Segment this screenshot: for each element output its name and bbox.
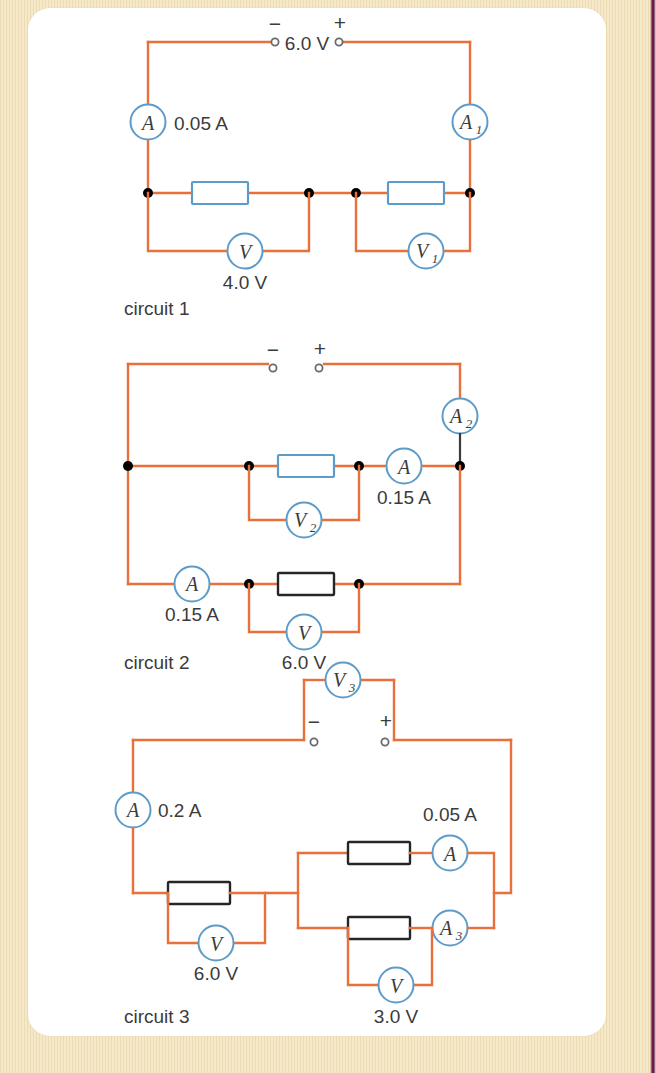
c3-resistor-bottom[interactable] xyxy=(348,917,410,939)
c1-ammeter-a1-subscript: 1 xyxy=(476,122,483,137)
c2-terminal-positive xyxy=(315,364,322,371)
c2-ammeter-a-upper-reading: 0.15 A xyxy=(377,487,431,508)
c2-voltmeter-v2-subscript: 2 xyxy=(310,520,317,535)
c1-wire-v1-branch-right xyxy=(444,193,470,251)
c3-wire-v-bottom-r xyxy=(414,928,432,985)
c1-supply-voltage: 6.0 V xyxy=(285,33,330,54)
c1-ammeter-a-symbol: A xyxy=(140,112,155,134)
circuit-1-group: − + 6.0 V A 0.05 A A 1 xyxy=(124,11,488,319)
c1-wire-v-branch-right xyxy=(263,193,309,251)
c2-ammeter-a-lower-symbol: A xyxy=(184,573,199,595)
c2-plus-sign: + xyxy=(314,337,326,360)
c1-plus-sign: + xyxy=(334,11,346,34)
c3-resistor-left[interactable] xyxy=(168,882,230,904)
c3-voltmeter-v-left-reading: 6.0 V xyxy=(194,963,239,984)
c3-ammeter-a-left-reading: 0.2 A xyxy=(158,800,202,821)
c1-resistor-right[interactable] xyxy=(388,182,444,204)
c2-minus-sign: − xyxy=(267,338,279,361)
c1-ammeter-a-reading: 0.05 A xyxy=(174,113,228,134)
circuit-diagram-figure: − + 6.0 V A 0.05 A A 1 xyxy=(28,8,606,1036)
c3-resistor-top[interactable] xyxy=(348,842,410,864)
c3-wire-v-left-branch-r xyxy=(234,893,265,943)
circuit-2-caption: circuit 2 xyxy=(124,652,189,673)
textbook-page: − + 6.0 V A 0.05 A A 1 xyxy=(0,0,656,1073)
c1-resistor-left[interactable] xyxy=(192,182,248,204)
c3-voltmeter-v3-subscript: 3 xyxy=(348,680,356,695)
c3-wire-par-top-to-right xyxy=(468,853,494,928)
c3-voltmeter-v-bottom-reading: 3.0 V xyxy=(374,1006,419,1027)
c3-ammeter-a-top-reading: 0.05 A xyxy=(423,804,477,825)
c3-terminal-negative xyxy=(310,738,317,745)
c3-plus-sign: + xyxy=(380,709,392,732)
c1-terminal-positive xyxy=(335,38,342,45)
c1-terminal-negative xyxy=(271,38,278,45)
page-edge-rule xyxy=(650,0,656,1073)
c2-ammeter-a2-symbol: A xyxy=(448,405,463,427)
c2-node-left xyxy=(123,461,133,471)
circuit-2-group: − + A 2 A 0.15 A xyxy=(123,337,478,673)
circuit-1-caption: circuit 1 xyxy=(124,298,189,319)
c1-minus-sign: − xyxy=(269,12,281,35)
c3-wire-right-rail xyxy=(494,740,511,893)
c3-ammeter-a-left-symbol: A xyxy=(125,799,140,821)
c2-ammeter-a-upper-symbol: A xyxy=(396,456,411,478)
c1-ammeter-a1-symbol: A xyxy=(458,111,473,133)
c2-voltmeter-v-reading: 6.0 V xyxy=(282,652,327,673)
circuit-3-caption: circuit 3 xyxy=(124,1006,189,1027)
c2-terminal-negative xyxy=(269,364,276,371)
c3-ammeter-a3-subscript: 3 xyxy=(455,928,463,943)
c1-voltmeter-v1-subscript: 1 xyxy=(432,251,439,266)
c3-ammeter-a3-symbol: A xyxy=(438,917,453,939)
c2-ammeter-a-lower-reading: 0.15 A xyxy=(165,604,219,625)
c3-ammeter-a-top-symbol: A xyxy=(442,843,457,865)
circuit-3-group: V 3 − + A 0.2 A xyxy=(116,663,512,1027)
c3-terminal-positive xyxy=(381,738,388,745)
c2-resistor-lower[interactable] xyxy=(278,573,334,595)
c1-voltmeter-v-reading: 4.0 V xyxy=(223,272,268,293)
c2-ammeter-a2-subscript: 2 xyxy=(466,416,473,431)
c2-resistor-upper[interactable] xyxy=(278,455,334,477)
white-figure-panel: − + 6.0 V A 0.05 A A 1 xyxy=(28,8,606,1036)
c3-minus-sign: − xyxy=(308,710,320,733)
